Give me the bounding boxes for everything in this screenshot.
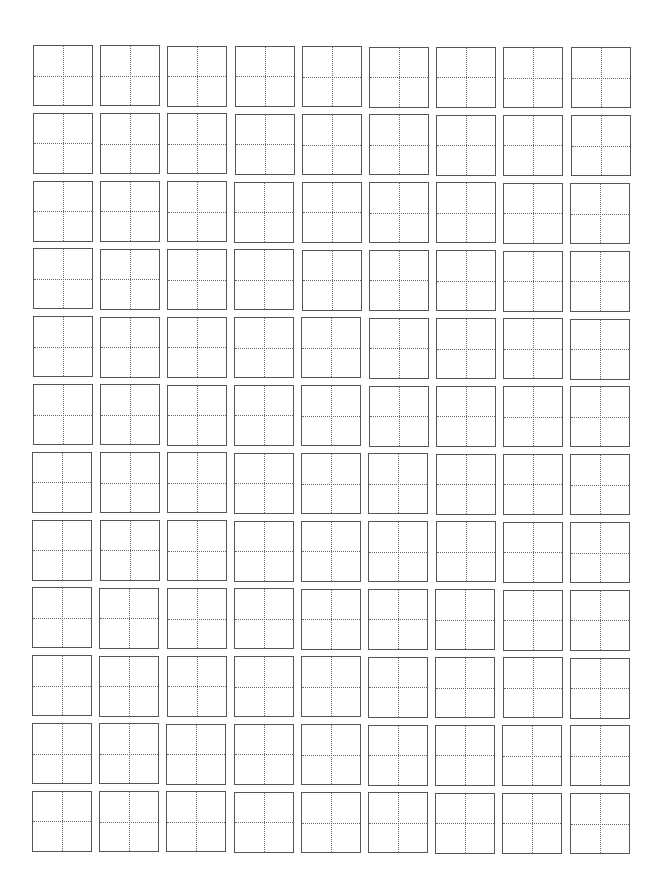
horizontal-guide-line [571, 553, 629, 554]
grid-cell [436, 115, 496, 176]
grid-cell [32, 655, 92, 716]
grid-cell [99, 723, 159, 784]
horizontal-guide-line [101, 550, 159, 551]
grid-cell [99, 656, 159, 717]
horizontal-guide-line [436, 688, 494, 689]
grid-cell [166, 724, 226, 785]
grid-cell [503, 251, 563, 312]
horizontal-guide-line [101, 211, 159, 212]
grid-cell [570, 454, 630, 515]
horizontal-guide-line [101, 483, 159, 484]
grid-cell [503, 47, 563, 108]
horizontal-guide-line [33, 686, 91, 687]
grid-cell [570, 658, 630, 719]
grid-cell [570, 386, 630, 447]
horizontal-guide-line [571, 349, 629, 350]
practice-grid-sheet [0, 0, 661, 890]
grid-cell [368, 792, 428, 853]
grid-cell [368, 725, 428, 786]
horizontal-guide-line [100, 822, 158, 823]
grid-cell [435, 793, 495, 854]
horizontal-guide-line [235, 822, 293, 823]
horizontal-guide-line [168, 144, 226, 145]
horizontal-guide-line [504, 552, 562, 553]
horizontal-guide-line [168, 686, 226, 687]
horizontal-guide-line [369, 823, 427, 824]
grid-cell [234, 249, 294, 310]
horizontal-guide-line [168, 483, 226, 484]
horizontal-guide-line [168, 619, 226, 620]
grid-cell [32, 452, 92, 513]
grid-cell [503, 115, 563, 176]
horizontal-guide-line [369, 552, 427, 553]
grid-cell [436, 182, 496, 243]
horizontal-guide-line [235, 551, 293, 552]
grid-cell [33, 181, 93, 242]
horizontal-guide-line [235, 212, 293, 213]
grid-cell [503, 657, 563, 718]
horizontal-guide-line [168, 76, 226, 77]
horizontal-guide-line [168, 280, 226, 281]
horizontal-guide-line [100, 754, 158, 755]
horizontal-guide-line [302, 416, 360, 417]
grid-cell [369, 250, 429, 311]
grid-cell [571, 47, 631, 108]
horizontal-guide-line [504, 688, 562, 689]
grid-cell [369, 114, 429, 175]
grid-cell [167, 46, 227, 107]
horizontal-guide-line [167, 822, 225, 823]
grid-cell [33, 113, 93, 174]
grid-cell [167, 249, 227, 310]
horizontal-guide-line [34, 279, 92, 280]
horizontal-guide-line [101, 144, 159, 145]
horizontal-guide-line [34, 76, 92, 77]
horizontal-guide-line [370, 280, 428, 281]
horizontal-guide-line [168, 551, 226, 552]
grid-cell [302, 182, 362, 243]
grid-cell [503, 183, 563, 244]
grid-cell [100, 45, 160, 106]
grid-cell [32, 791, 92, 852]
horizontal-guide-line [571, 756, 629, 757]
horizontal-guide-line [101, 415, 159, 416]
grid-cell [100, 249, 160, 310]
horizontal-guide-line [303, 145, 361, 146]
horizontal-guide-line [33, 482, 91, 483]
horizontal-guide-line [235, 619, 293, 620]
grid-cell [32, 587, 92, 648]
grid-cell [100, 384, 160, 445]
grid-cell [435, 657, 495, 718]
horizontal-guide-line [33, 754, 91, 755]
grid-cell [436, 250, 496, 311]
horizontal-guide-line [571, 214, 629, 215]
horizontal-guide-line [370, 77, 428, 78]
grid-cell [503, 590, 563, 651]
grid-cell [32, 723, 92, 784]
grid-cell [167, 181, 227, 242]
horizontal-guide-line [370, 416, 428, 417]
horizontal-guide-line [302, 823, 360, 824]
grid-cell [369, 182, 429, 243]
grid-cell [301, 453, 361, 514]
horizontal-guide-line [370, 348, 428, 349]
horizontal-guide-line [168, 347, 226, 348]
grid-cell [301, 656, 361, 717]
horizontal-guide-line [437, 77, 495, 78]
horizontal-guide-line [571, 281, 629, 282]
horizontal-guide-line [302, 687, 360, 688]
horizontal-guide-line [437, 145, 495, 146]
horizontal-guide-line [369, 619, 427, 620]
horizontal-guide-line [369, 755, 427, 756]
horizontal-guide-line [303, 280, 361, 281]
grid-cell [234, 521, 294, 582]
grid-cell [167, 113, 227, 174]
grid-cell [235, 114, 295, 175]
horizontal-guide-line [302, 619, 360, 620]
horizontal-guide-line [571, 688, 629, 689]
horizontal-guide-line [302, 484, 360, 485]
horizontal-guide-line [571, 417, 629, 418]
horizontal-guide-line [571, 485, 629, 486]
grid-cell [167, 656, 227, 717]
horizontal-guide-line [235, 280, 293, 281]
grid-cell [32, 520, 92, 581]
